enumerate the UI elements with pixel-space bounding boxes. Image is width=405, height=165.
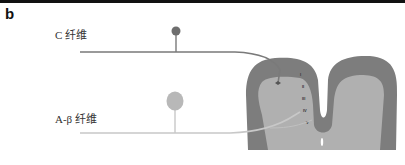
c-fiber-soma (172, 27, 181, 36)
lamina-i-label: I (300, 72, 301, 77)
lamina-iii-label: III (302, 96, 305, 101)
lamina-iv-label: IV (303, 108, 307, 113)
spinal-cord-gray-matter (258, 75, 384, 150)
central-canal (321, 138, 323, 146)
pain-pathway-diagram: I II III IV V (0, 0, 405, 165)
a-beta-fiber-soma (167, 92, 184, 111)
lamina-ii-label: II (302, 84, 304, 89)
spinal-cord: I II III IV V (246, 56, 397, 150)
